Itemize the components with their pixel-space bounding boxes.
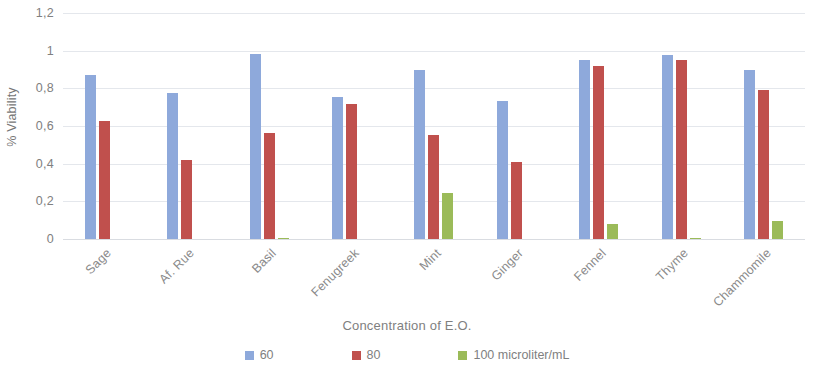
bar-group-bars	[228, 13, 310, 239]
y-axis-tick-label: 0,4	[2, 157, 54, 171]
bar-60	[332, 97, 343, 239]
y-axis-tick-label: 1,2	[2, 6, 54, 20]
x-axis-tick: Fennel	[558, 240, 640, 314]
x-axis-tick: Fenugreek	[310, 240, 392, 314]
bar-group	[558, 13, 640, 239]
bar-group-bars	[723, 13, 805, 239]
bar-group-bars	[393, 13, 475, 239]
y-axis-tick-label: 0,2	[2, 194, 54, 208]
x-axis-tick-label: Mint	[417, 246, 444, 273]
x-axis-tick-label: Af. Rue	[156, 246, 196, 286]
x-axis-tick: Basil	[228, 240, 310, 314]
bar-group	[393, 13, 475, 239]
bar-80	[181, 160, 192, 239]
bar-80	[511, 162, 522, 239]
x-axis-tick: Ginger	[475, 240, 557, 314]
bar-80	[758, 90, 769, 239]
bar-group-bars	[63, 13, 145, 239]
bar-100	[442, 193, 453, 239]
bar-group	[63, 13, 145, 239]
bar-80	[676, 60, 687, 239]
x-axis-tick-label: Sage	[83, 246, 114, 277]
y-axis-tick-label: 0	[2, 232, 54, 246]
bar-80	[593, 66, 604, 239]
bar-group	[640, 13, 722, 239]
x-axis-tick: Chammomile	[723, 240, 805, 314]
bar-60	[497, 101, 508, 239]
legend-swatch-icon	[352, 351, 361, 360]
bar-60	[167, 93, 178, 239]
x-axis-tick: Sage	[63, 240, 145, 314]
x-axis-title: Concentration of E.O.	[0, 318, 814, 333]
chart-legend: 6080100 microliter/mL	[0, 348, 814, 362]
bar-80	[346, 104, 357, 239]
bar-group	[228, 13, 310, 239]
bar-60	[85, 75, 96, 239]
bar-80	[99, 121, 110, 239]
bar-chart: % Viability 1,210,80,60,40,20 SageAf. Ru…	[0, 0, 814, 370]
plot-area: 1,210,80,60,40,20	[63, 13, 805, 239]
y-axis-tick-label: 0,8	[2, 81, 54, 95]
bar-group-bars	[145, 13, 227, 239]
x-axis-tick-label: Ginger	[489, 246, 526, 283]
y-axis-tick-label: 1	[2, 44, 54, 58]
legend-label: 80	[367, 348, 381, 362]
bar-80	[428, 135, 439, 239]
y-axis-tick-label: 0,6	[2, 119, 54, 133]
bar-80	[264, 133, 275, 239]
legend-swatch-icon	[245, 351, 254, 360]
x-axis-tick-label: Fennel	[571, 246, 609, 284]
x-axis-tick-label: Fenugreek	[308, 246, 361, 299]
bar-group-bars	[558, 13, 640, 239]
bar-100	[278, 238, 289, 239]
x-axis-tick: Thyme	[640, 240, 722, 314]
legend-label: 60	[260, 348, 274, 362]
legend-swatch-icon	[458, 351, 467, 360]
x-axis-tick: Af. Rue	[145, 240, 227, 314]
bar-group	[145, 13, 227, 239]
bar-60	[662, 55, 673, 239]
bar-60	[250, 54, 261, 240]
x-axis-tick: Mint	[393, 240, 475, 314]
bar-60	[414, 70, 425, 239]
bar-100	[772, 221, 783, 239]
bar-group	[475, 13, 557, 239]
bar-group	[723, 13, 805, 239]
x-axis-category-labels: SageAf. RueBasilFenugreekMintGingerFenne…	[63, 240, 805, 314]
legend-label: 100 microliter/mL	[473, 348, 569, 362]
bar-60	[744, 70, 755, 240]
bar-100	[607, 224, 618, 239]
bar-groups	[63, 13, 805, 239]
bar-group	[310, 13, 392, 239]
legend-item[interactable]: 100 microliter/mL	[458, 348, 569, 362]
legend-item[interactable]: 80	[352, 348, 381, 362]
bar-group-bars	[640, 13, 722, 239]
x-axis-tick-label: Thyme	[654, 246, 692, 284]
bar-100	[690, 238, 701, 239]
legend-item[interactable]: 60	[245, 348, 274, 362]
bar-60	[579, 60, 590, 239]
bar-group-bars	[310, 13, 392, 239]
bar-group-bars	[475, 13, 557, 239]
x-axis-tick-label: Basil	[249, 246, 279, 276]
